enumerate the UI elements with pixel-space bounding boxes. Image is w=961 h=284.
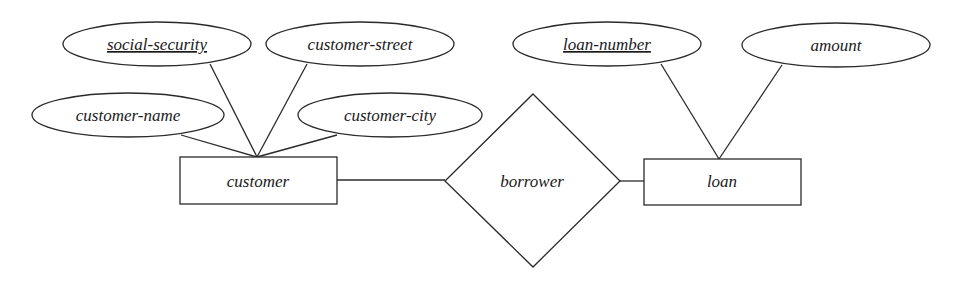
entity-label: customer <box>227 172 290 191</box>
attribute-label-key: loan-number <box>563 35 651 54</box>
er-diagram: social-security customer-street customer… <box>0 0 961 284</box>
attribute-social-security: social-security <box>63 22 251 66</box>
attribute-label: customer-name <box>76 106 181 125</box>
edge-customer-city-customer <box>257 135 337 157</box>
attribute-customer-city: customer-city <box>298 93 482 137</box>
edge-amount-loan <box>719 65 782 159</box>
attribute-label: customer-city <box>344 106 437 125</box>
attribute-label: amount <box>811 36 863 55</box>
attribute-label: customer-street <box>308 35 414 54</box>
attribute-label-key: social-security <box>107 35 208 54</box>
entity-loan: loan <box>644 159 801 205</box>
attribute-customer-street: customer-street <box>266 22 454 66</box>
edge-customer-name-customer <box>181 135 257 157</box>
entity-label: loan <box>707 172 737 191</box>
attribute-customer-name: customer-name <box>32 93 224 137</box>
attribute-amount: amount <box>742 23 930 67</box>
entity-customer: customer <box>180 157 337 204</box>
edge-loan-number-loan <box>661 64 719 159</box>
attribute-loan-number: loan-number <box>513 22 701 66</box>
relationship-label: borrower <box>500 172 564 191</box>
